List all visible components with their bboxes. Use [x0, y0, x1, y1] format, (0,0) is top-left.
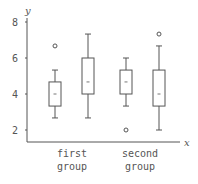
y-axis-label: y [24, 5, 31, 16]
box-1 [49, 44, 61, 118]
group-labels: first group second group [57, 148, 158, 172]
y-tick-label: 2 [12, 125, 18, 136]
group-label-second-line1: second [122, 148, 158, 159]
y-tick-label: 6 [12, 53, 18, 64]
group-label-first-line2: group [57, 161, 87, 172]
group-label-first-line1: first [57, 148, 87, 159]
iqr-box [153, 70, 165, 106]
boxes [49, 32, 165, 132]
outlier-point [124, 128, 128, 132]
boxplot-chart: y x 2468 first group second group [0, 0, 198, 184]
y-tick-label: 4 [12, 89, 18, 100]
outlier-point [53, 44, 57, 48]
box-2 [82, 34, 94, 118]
group-label-second-line2: group [125, 161, 155, 172]
x-axis-label: x [184, 137, 190, 148]
y-tick-label: 8 [12, 17, 18, 28]
iqr-box [82, 58, 94, 94]
outlier-point [157, 32, 161, 36]
box-3 [120, 58, 132, 132]
y-ticks: 2468 [12, 17, 27, 136]
box-4 [153, 32, 165, 130]
